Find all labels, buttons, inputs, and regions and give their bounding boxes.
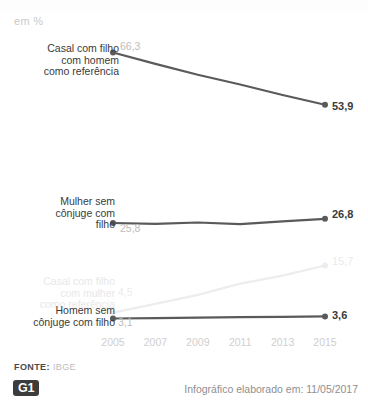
series-end-value-homem-sem-conjuge: 3,6 [332,309,347,321]
series-line-homem-sem-conjuge [113,316,325,318]
series-start-value-casal-homem: 66,3 [120,40,140,52]
series-point [322,313,328,319]
series-label-mulher-sem-conjuge: Mulher sem cônjuge com filho [5,196,115,231]
chart-footer: FONTE:IBGE G1 Infográfico elaborado em: … [0,358,368,412]
series-point [322,263,328,269]
x-axis-tick-2005: 2005 [101,336,124,348]
series-end-value-casal-mulher: 15,7 [332,255,353,267]
g1-logo: G1 [13,380,39,396]
x-axis-tick-2011: 2011 [229,336,252,348]
source-label: FONTE: [14,362,50,372]
series-start-value-homem-sem-conjuge: 3,1 [118,316,133,328]
series-line-mulher-sem-conjuge [113,219,325,224]
credit-text: Infográfico elaborado em: 11/05/2017 [184,383,358,395]
x-axis-tick-2009: 2009 [186,336,209,348]
series-point [322,216,328,222]
x-axis-tick-2013: 2013 [271,336,294,348]
chart-plot-area: Casal com filho com homem como referênci… [0,0,368,412]
series-line-casal-homem [113,53,325,105]
series-endpoint-markers [110,50,328,322]
x-axis-tick-2015: 2015 [313,336,336,348]
series-line-casal-mulher [113,266,325,313]
source-line: FONTE:IBGE [14,362,76,372]
series-point [322,102,328,108]
series-start-value-mulher-sem-conjuge: 25,8 [120,222,140,234]
series-start-value-casal-mulher: 4,5 [118,286,133,298]
series-end-value-mulher-sem-conjuge: 26,8 [332,208,353,220]
infographic-root: em % Casal com filho com homem como refe… [0,0,368,412]
series-end-value-casal-homem: 53,9 [332,100,353,112]
source-value: IBGE [53,362,76,372]
x-axis-tick-2007: 2007 [144,336,167,348]
series-label-casal-homem: Casal com filho com homem como referênci… [9,43,119,78]
series-label-homem-sem-conjuge: Homem sem cônjuge com filho [0,305,115,328]
